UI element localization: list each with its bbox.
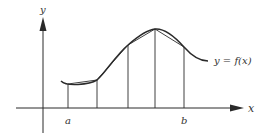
interval-end-label: b (181, 115, 187, 126)
x-axis (16, 105, 244, 112)
x-axis-arrow-icon (230, 105, 244, 112)
y-axis (40, 17, 47, 133)
partition-ordinates (68, 29, 184, 108)
trapezoid-chords (68, 29, 184, 84)
curve-label: y = f(x) (213, 55, 252, 66)
y-axis-arrow-icon (40, 17, 47, 31)
y-axis-label: y (39, 4, 46, 15)
x-axis-label: x (248, 102, 255, 115)
function-curve (61, 29, 208, 85)
trapezoid-rule-diagram: x y a b y = f(x) (0, 0, 262, 136)
interval-start-label: a (65, 115, 71, 126)
